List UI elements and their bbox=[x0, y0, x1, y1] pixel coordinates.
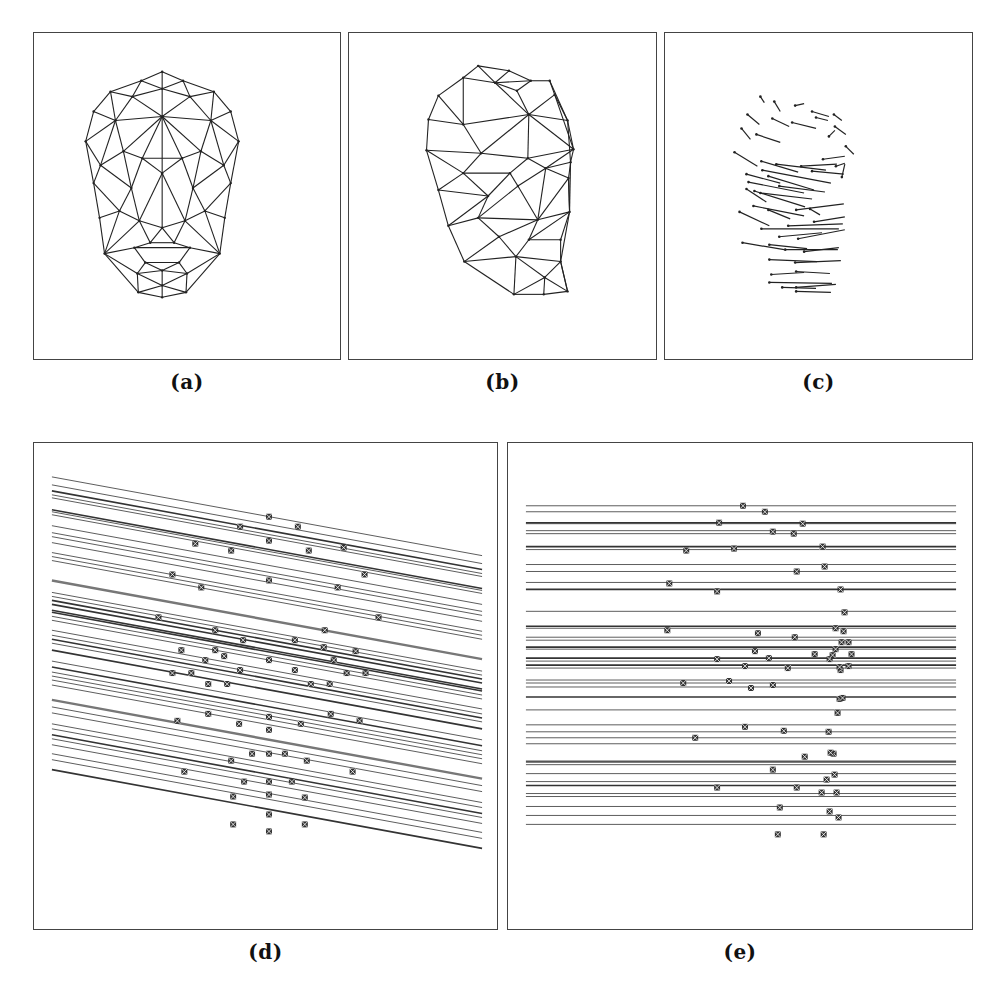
motion-vector bbox=[756, 134, 780, 142]
feature-point-marker bbox=[821, 831, 827, 837]
motion-vector bbox=[760, 193, 812, 199]
mesh-edge bbox=[134, 243, 150, 248]
mesh-edge bbox=[438, 96, 463, 125]
feature-point-marker bbox=[762, 509, 768, 515]
mesh-node bbox=[84, 140, 86, 142]
mesh-edge bbox=[132, 89, 162, 97]
feature-point-marker bbox=[237, 524, 243, 530]
mesh-node bbox=[572, 148, 574, 150]
mesh-edge bbox=[463, 153, 481, 173]
feature-point-marker bbox=[836, 814, 842, 820]
panel-a-frontal-face-mesh bbox=[33, 32, 341, 360]
mesh-edge bbox=[150, 228, 162, 243]
feature-point-marker bbox=[846, 639, 852, 645]
feature-point-marker bbox=[692, 735, 698, 741]
caption-e: (e) bbox=[507, 940, 973, 964]
vector-origin-dot bbox=[767, 209, 770, 212]
feature-point-marker bbox=[298, 721, 304, 727]
feature-point-marker bbox=[295, 524, 301, 530]
mesh-edge bbox=[185, 211, 205, 221]
mesh-node bbox=[161, 88, 163, 90]
mesh-node bbox=[161, 71, 163, 73]
mesh-edge bbox=[119, 188, 131, 211]
mesh-node bbox=[210, 119, 212, 121]
mesh-node bbox=[103, 252, 105, 254]
vector-origin-dot bbox=[794, 261, 797, 264]
mesh-edge bbox=[100, 211, 120, 218]
mesh-node bbox=[498, 236, 500, 238]
mesh-node bbox=[173, 242, 175, 244]
vector-origin-dot bbox=[778, 185, 781, 188]
vector-origin-dot bbox=[781, 286, 784, 289]
motion-vector bbox=[795, 104, 804, 106]
feature-point-marker bbox=[770, 767, 776, 773]
epipolar-line bbox=[52, 510, 482, 589]
feature-point-marker bbox=[363, 670, 369, 676]
mesh-node bbox=[219, 252, 221, 254]
mesh-node bbox=[462, 123, 464, 125]
mesh-edge bbox=[179, 248, 190, 263]
feature-point-marker bbox=[292, 667, 298, 673]
mesh-node bbox=[569, 161, 571, 163]
mesh-edge bbox=[514, 257, 516, 295]
mesh-node bbox=[192, 187, 194, 189]
mesh-edge bbox=[94, 165, 101, 183]
feature-point-marker bbox=[230, 794, 236, 800]
feature-point-marker bbox=[266, 828, 272, 834]
feature-point-marker bbox=[266, 714, 272, 720]
mesh-edge bbox=[142, 117, 162, 159]
mesh-edge bbox=[138, 292, 162, 297]
mesh-node bbox=[528, 239, 530, 241]
feature-point-marker bbox=[266, 811, 272, 817]
vector-origin-dot bbox=[822, 158, 825, 161]
mesh-node bbox=[447, 225, 449, 227]
mesh-node bbox=[537, 219, 539, 221]
motion-vector bbox=[810, 209, 820, 215]
mesh-edge bbox=[134, 248, 145, 263]
epipolar-line bbox=[52, 596, 482, 675]
vector-origin-dot bbox=[791, 121, 794, 124]
mesh-edge bbox=[550, 81, 568, 121]
mesh-node bbox=[131, 95, 133, 97]
mesh-edge bbox=[190, 248, 220, 254]
mesh-edge bbox=[137, 263, 145, 274]
vector-origin-dot bbox=[787, 225, 790, 228]
vector-origin-dot bbox=[733, 151, 736, 154]
feature-point-marker bbox=[828, 750, 834, 756]
feature-point-marker bbox=[174, 718, 180, 724]
caption-c: (c) bbox=[664, 370, 973, 394]
mesh-edge bbox=[516, 240, 529, 257]
vector-origin-dot bbox=[768, 281, 771, 284]
feature-point-marker bbox=[212, 627, 218, 633]
feature-point-marker bbox=[266, 792, 272, 798]
mesh-edge bbox=[463, 173, 488, 196]
mesh-edge bbox=[105, 254, 139, 293]
epipolar-line bbox=[52, 491, 482, 570]
feature-point-marker bbox=[302, 795, 308, 801]
mesh-node bbox=[509, 172, 511, 174]
feature-point-marker bbox=[292, 637, 298, 643]
mesh-node bbox=[513, 293, 515, 295]
feature-point-marker bbox=[833, 646, 839, 652]
mesh-node bbox=[136, 272, 138, 274]
vector-origin-dot bbox=[834, 125, 837, 128]
feature-point-marker bbox=[302, 821, 308, 827]
vector-origin-dot bbox=[760, 227, 763, 230]
feature-point-marker bbox=[842, 609, 848, 615]
mesh-edge bbox=[187, 254, 220, 274]
feature-point-marker bbox=[322, 627, 328, 633]
mesh-edge bbox=[544, 291, 568, 294]
feature-point-marker bbox=[833, 625, 839, 631]
mesh-edge bbox=[499, 220, 538, 237]
mesh-edge bbox=[139, 173, 162, 221]
mesh-edge bbox=[162, 158, 182, 173]
mesh-edge bbox=[426, 119, 428, 150]
mesh-edge bbox=[131, 158, 142, 188]
mesh-edge bbox=[495, 71, 509, 83]
vector-origin-dot bbox=[835, 165, 838, 168]
feature-point-marker bbox=[228, 548, 234, 554]
mesh-edge bbox=[224, 165, 231, 183]
feature-point-marker bbox=[794, 569, 800, 575]
mesh-edge bbox=[529, 95, 555, 115]
mesh-edge bbox=[137, 273, 162, 285]
